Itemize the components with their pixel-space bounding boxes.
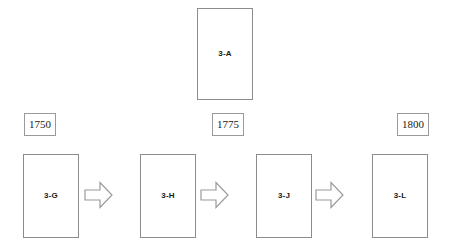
year-marker-label: 1800: [402, 119, 424, 130]
year-marker-1775[interactable]: 1775: [212, 113, 244, 136]
process-box-label: 3-H: [161, 192, 175, 200]
process-box-label: 3-A: [218, 50, 232, 58]
arrow-right-icon: [315, 181, 344, 209]
year-marker-1800[interactable]: 1800: [397, 113, 429, 136]
diagram-canvas: 3-A 1750 1775 1800 3-G 3-H 3-J 3-L: [0, 0, 449, 251]
process-box-label: 3-G: [44, 192, 58, 200]
year-marker-label: 1750: [29, 119, 51, 130]
process-box-3-g[interactable]: 3-G: [23, 154, 79, 238]
process-box-3-j[interactable]: 3-J: [256, 154, 312, 238]
process-box-3-l[interactable]: 3-L: [372, 154, 428, 238]
year-marker-1750[interactable]: 1750: [24, 113, 56, 136]
process-box-3-a[interactable]: 3-A: [197, 8, 253, 100]
process-box-label: 3-L: [394, 192, 407, 200]
process-box-label: 3-J: [278, 192, 290, 200]
arrow-right-icon: [84, 181, 113, 209]
arrow-right-icon: [200, 181, 229, 209]
year-marker-label: 1775: [217, 119, 239, 130]
process-box-3-h[interactable]: 3-H: [140, 154, 196, 238]
